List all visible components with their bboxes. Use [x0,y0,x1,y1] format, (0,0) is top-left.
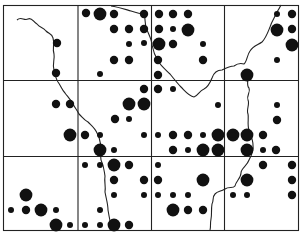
dot-medium [111,115,119,123]
dot-large [20,189,33,202]
dot-small [97,162,103,168]
dot-medium [259,161,267,169]
dot-small [185,192,191,198]
dot-small [97,132,103,138]
dot-large [197,174,210,187]
dot-small [230,132,236,138]
dot-small [274,11,280,17]
dot-small [111,147,117,153]
dot-large [197,144,210,157]
dot-large [153,38,166,51]
dot-medium [272,146,280,154]
dot-medium [199,56,207,64]
dot-medium [66,100,74,108]
dot-large [286,39,299,52]
dot-medium [155,10,163,18]
dot-medium [125,56,133,64]
dot-large [241,69,254,82]
dot-medium [140,10,148,18]
dot-large [123,98,136,111]
dot-medium [288,191,296,199]
dot-small [82,162,88,168]
dot-small [200,132,206,138]
dot-small [274,102,280,108]
dot-small [170,26,176,32]
dot-small [274,57,280,63]
dot-small [82,222,88,228]
dot-small [8,207,14,213]
dot-small [97,71,103,77]
dot-medium [259,131,267,139]
dot-large [241,144,254,157]
dot-medium [82,9,90,17]
dot-medium [52,100,60,108]
dot-large [212,144,225,157]
dot-small [97,222,103,228]
dot-medium [81,131,89,139]
dot-medium [140,85,148,93]
dot-medium [110,56,118,64]
dot-large [94,144,107,157]
dot-small [67,222,73,228]
dot-large [64,129,77,142]
dot-small [53,207,59,213]
dot-medium [110,25,118,33]
dot-large [271,24,284,37]
dot-medium [110,176,118,184]
dot-large [108,159,121,172]
dot-large [241,174,254,187]
dot-small [126,41,132,47]
dot-small [97,207,103,213]
dot-medium [169,10,177,18]
dot-large [212,129,225,142]
dot-medium [288,10,296,18]
dot-large [241,129,254,142]
dot-medium [125,161,133,169]
dot-small [170,192,176,198]
dot-large [94,8,107,21]
dot-medium [22,206,30,214]
dot-medium [199,206,207,214]
dot-medium [140,25,148,33]
dot-small [141,132,147,138]
dot-medium [273,116,281,124]
dot-small [126,116,132,122]
dot-small [155,192,161,198]
dot-large [182,24,195,37]
dot-medium [169,40,177,48]
dot-large [138,98,151,111]
dot-medium [288,161,296,169]
dot-medium [125,221,133,229]
dot-medium [140,176,148,184]
dot-large [50,219,63,232]
dot-medium [155,25,163,33]
dot-small [185,147,191,153]
dot-small [155,162,161,168]
dot-medium [184,131,192,139]
dot-medium [169,146,177,154]
dot-medium [125,25,133,33]
dot-small [141,40,147,46]
dot-medium [53,39,61,47]
dot-small [215,102,221,108]
dot-small [200,41,206,47]
dot-small [111,192,117,198]
dot-medium [154,71,162,79]
dot-medium [154,176,162,184]
dot-medium [184,10,192,18]
dot-large [108,219,121,232]
dot-medium [154,85,162,93]
dot-medium [169,131,177,139]
dot-medium [288,176,296,184]
dot-medium [288,25,296,33]
dot-small [141,192,147,198]
dot-distribution-map [0,0,302,241]
dot-medium [154,56,162,64]
dot-small [260,147,266,153]
dot-small [170,86,176,92]
dot-medium [184,206,192,214]
dot-small [244,192,250,198]
dot-medium [52,69,60,77]
dot-small [155,132,161,138]
dot-large [167,204,180,217]
